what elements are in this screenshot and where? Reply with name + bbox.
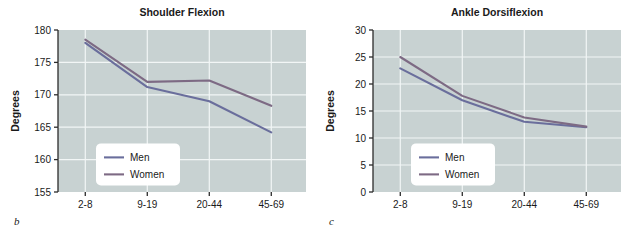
x-tick-label: 20-44 <box>196 199 222 210</box>
legend-label-women: Women <box>130 169 164 180</box>
y-axis-title: Degrees <box>324 90 336 132</box>
y-tick-label: 165 <box>34 122 51 133</box>
y-axis-title: Degrees <box>9 90 21 132</box>
y-tick-label: 20 <box>355 79 367 90</box>
y-tick-label: 10 <box>355 133 367 144</box>
y-tick-label: 30 <box>355 25 367 36</box>
legend-label-men: Men <box>445 152 464 163</box>
shoulder-flexion-chart: Shoulder Flexion155160165170175180Degree… <box>0 0 315 215</box>
panel-letter-b: b <box>14 215 20 227</box>
ankle-dorsiflexion-chart: Ankle Dorsiflexion051015202530Degrees2-8… <box>315 0 630 215</box>
panel-c-ankle-dorsiflexion: Ankle Dorsiflexion051015202530Degrees2-8… <box>315 0 630 235</box>
y-tick-label: 155 <box>34 187 51 198</box>
chart-title: Ankle Dorsiflexion <box>451 6 543 18</box>
legend[interactable]: MenWomen <box>96 143 180 185</box>
x-tick-label: 45-69 <box>573 199 599 210</box>
plot-area-background <box>58 30 306 192</box>
y-tick-label: 175 <box>34 57 51 68</box>
x-tick-label: 2-8 <box>393 199 408 210</box>
y-tick-label: 5 <box>360 160 366 171</box>
x-tick-label: 9-19 <box>137 199 157 210</box>
y-tick-label: 170 <box>34 89 51 100</box>
legend-label-women: Women <box>445 169 479 180</box>
x-tick-label: 20-44 <box>511 199 537 210</box>
legend-label-men: Men <box>130 152 149 163</box>
figure-two-panel-line-charts: Shoulder Flexion155160165170175180Degree… <box>0 0 630 235</box>
x-tick-label: 2-8 <box>78 199 93 210</box>
chart-title: Shoulder Flexion <box>139 6 224 18</box>
panel-letter-c: c <box>329 215 334 227</box>
x-tick-label: 45-69 <box>258 199 284 210</box>
y-tick-label: 160 <box>34 154 51 165</box>
x-tick-label: 9-19 <box>452 199 472 210</box>
y-tick-label: 15 <box>355 106 367 117</box>
legend[interactable]: MenWomen <box>411 143 495 185</box>
y-tick-label: 0 <box>360 187 366 198</box>
y-tick-label: 180 <box>34 25 51 36</box>
y-tick-label: 25 <box>355 52 367 63</box>
panel-b-shoulder-flexion: Shoulder Flexion155160165170175180Degree… <box>0 0 315 235</box>
